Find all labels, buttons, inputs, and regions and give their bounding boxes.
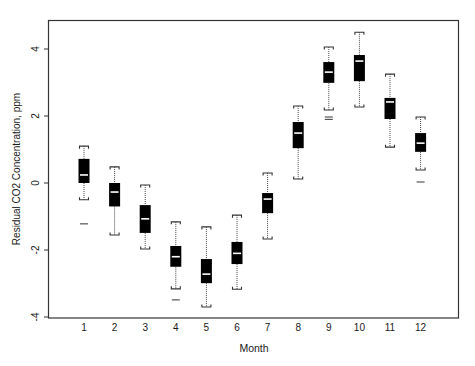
x-tick-label: 12 [415,322,427,333]
iqr-box [201,259,212,283]
x-tick-label: 7 [265,322,271,333]
box-month-5 [201,227,212,307]
iqr-box [79,159,90,183]
y-tick-label: 2 [30,113,41,119]
x-tick-label: 8 [295,322,301,333]
x-tick-label: 10 [354,322,366,333]
x-tick-label: 5 [204,322,210,333]
box-month-7 [262,173,273,239]
box-month-3 [140,185,151,249]
box-month-2 [109,167,120,235]
y-tick-label: 4 [30,46,41,52]
box-month-10 [354,32,365,107]
iqr-box [262,193,273,213]
box-month-4 [170,222,181,300]
y-tick-label: -2 [30,245,41,254]
x-tick-label: 2 [112,322,118,333]
y-tick-label: 0 [30,180,41,186]
x-tick-label: 11 [385,322,396,333]
box-month-6 [232,215,243,289]
x-tick-label: 4 [173,322,179,333]
x-tick-label: 6 [234,322,240,333]
x-tick-label: 9 [326,322,332,333]
box-month-9 [323,47,334,119]
iqr-box [385,98,396,119]
y-axis: -4-2024 [30,46,49,322]
lower-cap [324,107,333,110]
box-month-12 [415,117,426,182]
iqr-box [109,183,120,206]
y-tick-label: -4 [30,312,41,321]
x-tick-label: 3 [142,322,148,333]
y-axis-label: Residual CO2 Concentration, ppm [11,93,22,245]
x-tick-label: 1 [81,322,87,333]
box-series [79,32,427,307]
box-month-8 [293,106,304,179]
chart-canvas: -4-2024 123456789101112 Month Residual C… [0,0,475,366]
x-axis: 123456789101112 [81,322,426,333]
x-axis-label: Month [239,342,268,354]
box-plot-chart: -4-2024 123456789101112 Month Residual C… [0,0,475,366]
box-month-1 [79,146,90,224]
iqr-box [354,55,365,81]
iqr-box [293,122,304,148]
box-month-11 [385,74,396,147]
